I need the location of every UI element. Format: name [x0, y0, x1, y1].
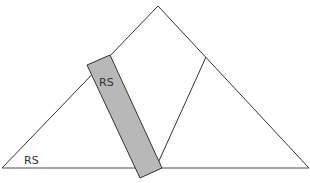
diagram-canvas: RS RS [0, 0, 310, 183]
corner-label: RS [24, 154, 39, 167]
rotated-strip [87, 55, 162, 178]
interior-divider-line [158, 57, 206, 163]
triangle-right-side [158, 6, 309, 168]
strip-label: RS [99, 76, 114, 89]
